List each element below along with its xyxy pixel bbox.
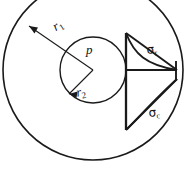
label-radial-stress: σr xyxy=(146,43,158,58)
label-hoop-stress-subscript: c xyxy=(156,111,161,120)
outer-circle-r1 xyxy=(3,0,183,160)
sigma-c-curve xyxy=(127,79,177,129)
pressure-vessel-stress-figure: r1 r2 p σr σc xyxy=(0,0,184,171)
label-hoop-stress: σc xyxy=(148,106,161,122)
label-internal-pressure: p xyxy=(86,43,93,56)
figure-svg xyxy=(0,0,184,171)
radius-arrow-r1 xyxy=(29,26,38,34)
